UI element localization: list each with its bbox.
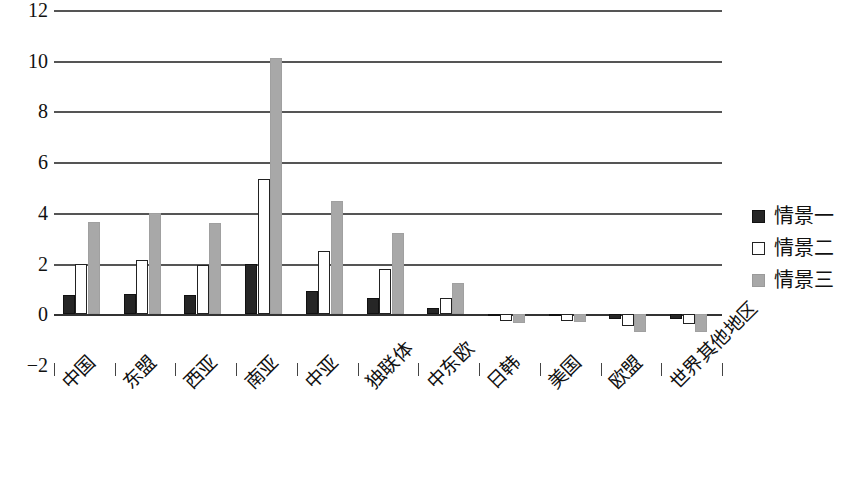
bar: [683, 314, 695, 324]
x-tick: [175, 363, 176, 376]
gridline-8: [54, 111, 722, 113]
legend-swatch-scenario-3: [752, 274, 765, 287]
x-tick: [540, 363, 541, 376]
bar: [561, 314, 573, 320]
bar: [306, 291, 318, 314]
bar: [197, 265, 209, 314]
legend-label-scenario-2: 情景二: [774, 238, 834, 258]
y-tick-label: 12: [2, 0, 48, 20]
y-tick-label: 4: [2, 203, 48, 223]
x-tick: [54, 363, 55, 376]
gridline-6: [54, 162, 722, 164]
bar: [63, 295, 75, 314]
bar: [513, 314, 525, 323]
x-tick: [479, 363, 480, 376]
bar: [318, 251, 330, 314]
legend-item-scenario-3: 情景三: [752, 264, 849, 296]
bar: [184, 295, 196, 314]
legend-swatch-scenario-2: [752, 242, 765, 255]
gridline-10: [54, 61, 722, 63]
bar: [331, 201, 343, 314]
bar: [136, 260, 148, 315]
bar: [245, 264, 257, 315]
bar: [488, 314, 500, 316]
bar: [75, 264, 87, 315]
bar: [622, 314, 634, 325]
bar: [124, 294, 136, 314]
bar-chart: 121086420−2 中国东盟西亚南亚中亚独联体中东欧日韩美国欧盟世界其他地区…: [0, 0, 849, 498]
x-tick: [722, 363, 723, 376]
bar: [209, 223, 221, 314]
y-tick-label: 8: [2, 101, 48, 121]
legend-item-scenario-1: 情景一: [752, 200, 849, 232]
x-axis-ticks: [54, 363, 722, 377]
y-tick-label: 10: [2, 51, 48, 71]
bar: [379, 269, 391, 315]
legend-item-scenario-2: 情景二: [752, 232, 849, 264]
bar: [574, 314, 586, 322]
x-tick: [661, 363, 662, 376]
bar: [392, 233, 404, 314]
plot-area: [54, 10, 722, 365]
x-tick: [358, 363, 359, 376]
y-tick-label: 6: [2, 152, 48, 172]
x-tick: [236, 363, 237, 376]
legend-label-scenario-3: 情景三: [774, 270, 834, 290]
bar: [367, 298, 379, 314]
bar: [634, 314, 646, 332]
legend-swatch-scenario-1: [752, 210, 765, 223]
bar: [670, 314, 682, 319]
x-tick: [601, 363, 602, 376]
x-tick: [418, 363, 419, 376]
bar: [270, 58, 282, 314]
bar: [258, 179, 270, 315]
x-tick: [115, 363, 116, 376]
bar: [149, 213, 161, 314]
bar: [500, 314, 512, 321]
bar: [427, 308, 439, 314]
bar: [440, 298, 452, 314]
chart-legend: 情景一 情景二 情景三: [752, 200, 849, 296]
gridline-12: [54, 10, 722, 12]
bar: [609, 314, 621, 319]
bar: [549, 314, 561, 316]
bar: [695, 314, 707, 331]
bar: [452, 283, 464, 315]
legend-label-scenario-1: 情景一: [774, 206, 834, 226]
y-tick-label: −2: [2, 355, 48, 375]
y-tick-label: 2: [2, 254, 48, 274]
y-axis: 121086420−2: [0, 0, 48, 400]
x-tick: [297, 363, 298, 376]
y-tick-label: 0: [2, 304, 48, 324]
bar: [88, 222, 100, 315]
